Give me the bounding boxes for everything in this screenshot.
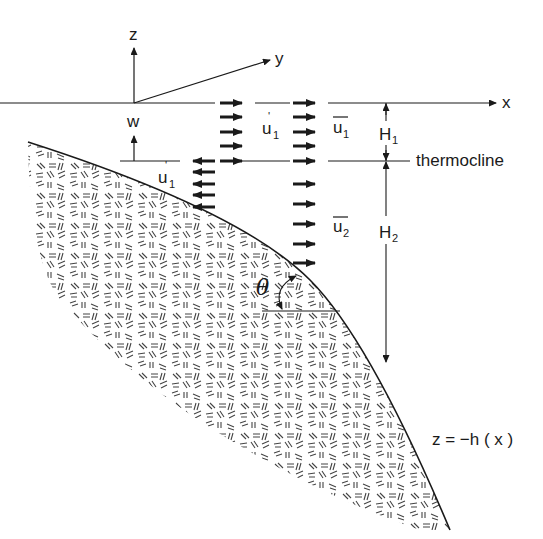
u1-prime-right-arrows — [220, 103, 242, 161]
y-axis-label: y — [275, 49, 284, 68]
x-axis-label: x — [502, 93, 511, 112]
u1-bar-sub: 1 — [343, 128, 349, 140]
thermocline-label: thermocline — [416, 151, 504, 170]
u2-bar-label: u — [333, 217, 342, 236]
h2-label: H — [379, 223, 391, 242]
h1-sub: 1 — [392, 134, 398, 146]
u2-bar-sub: 2 — [343, 227, 349, 239]
theta-label: θ — [256, 275, 269, 300]
ocean-slope-diagram: z y x thermocline w u ' 1 u 1 u ' — [0, 0, 543, 539]
u1-bar-label: u — [333, 118, 342, 137]
u1-prime-upper-sup: ' — [268, 110, 270, 122]
u1-prime-left-arrows — [193, 161, 215, 207]
bottom-equation-label: z = −h ( x ) — [432, 430, 513, 449]
u1-prime-lower-sub: 1 — [169, 178, 175, 190]
y-axis — [134, 60, 270, 103]
h2-sub: 2 — [392, 232, 398, 244]
u2-bar-arrows — [293, 184, 315, 263]
h1-label: H — [379, 125, 391, 144]
w-label: w — [126, 112, 140, 131]
z-axis-label: z — [129, 25, 138, 44]
u1-prime-upper-sub: 1 — [273, 129, 279, 141]
u1-prime-lower-sup: ' — [165, 159, 167, 171]
sediment-slope — [28, 142, 450, 530]
u1-bar-arrows — [293, 103, 315, 161]
